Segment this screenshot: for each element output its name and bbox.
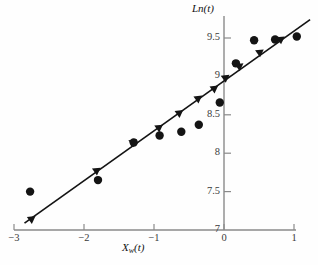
y-tick-label: 8.5	[193, 108, 220, 119]
x-axis-title: Xw(t)	[122, 241, 144, 255]
data-point-circle	[94, 176, 102, 184]
data-point-circle	[26, 187, 34, 195]
plot-area	[0, 0, 318, 265]
fitted-series-markers	[27, 33, 287, 224]
data-point-triangle	[175, 107, 186, 118]
data-point-circle	[155, 131, 163, 139]
data-point-circle	[130, 138, 138, 146]
x-axis-title-tail: (t)	[134, 241, 144, 253]
x-tick-label: 1	[285, 232, 303, 243]
x-tick-marks	[14, 224, 294, 230]
y-tick-label: 7	[193, 223, 220, 234]
x-axis-title-main: X	[122, 241, 129, 253]
y-tick-label: 7.5	[193, 185, 220, 196]
y-tick-label: 8	[193, 146, 220, 157]
axes	[14, 16, 296, 230]
y-tick-label: 9	[193, 69, 220, 80]
data-point-circle	[250, 36, 258, 44]
x-tick-label: −3	[5, 232, 23, 243]
y-tick-marks	[224, 38, 231, 192]
data-point-circle	[177, 127, 185, 135]
regression-line	[25, 20, 311, 224]
y-tick-label: 9.5	[193, 31, 220, 42]
x-tick-label: −1	[145, 232, 163, 243]
trend-line	[25, 20, 311, 224]
chart-figure: Ln(t) Xw(t) −3−2−101 77.588.599.5	[0, 0, 318, 265]
data-point-circle	[232, 59, 240, 67]
data-point-circle	[216, 98, 224, 106]
data-point-circle	[195, 121, 203, 129]
x-tick-label: −2	[75, 232, 93, 243]
data-point-circle	[293, 32, 301, 40]
y-axis-title: Ln(t)	[192, 2, 214, 14]
data-point-circle	[271, 35, 279, 43]
